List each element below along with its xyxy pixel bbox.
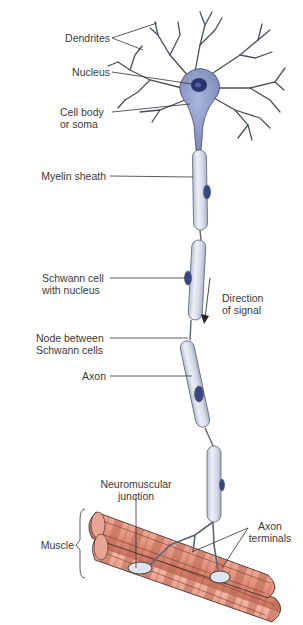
label-neuromuscular-junction: Neuromuscular junction — [86, 478, 186, 502]
label-direction-line2: of signal — [222, 304, 263, 316]
label-schwann-line2: with nucleus — [42, 284, 104, 296]
label-axon-terminals-line1: Axon — [240, 520, 300, 532]
label-nmj-line1: Neuromuscular — [86, 478, 186, 490]
label-node-line1: Node between — [36, 332, 104, 344]
label-node-between-schwann-cells: Node between Schwann cells — [36, 332, 104, 356]
label-myelin-sheath: Myelin sheath — [10, 170, 106, 182]
label-nmj-line2: junction — [86, 490, 186, 502]
neuron-diagram: Dendrites Nucleus Cell body or soma Myel… — [0, 0, 303, 625]
label-cell-body-line1: Cell body — [60, 106, 104, 118]
label-cell-body-line2: or soma — [60, 118, 104, 130]
label-dendrites: Dendrites — [20, 32, 110, 44]
label-node-line2: Schwann cells — [36, 344, 104, 356]
label-cell-body: Cell body or soma — [60, 106, 104, 130]
myelin-segments — [179, 150, 224, 522]
label-muscle: Muscle — [10, 539, 74, 551]
label-schwann-cell: Schwann cell with nucleus — [42, 272, 104, 296]
label-axon-terminals-line2: terminals — [240, 532, 300, 544]
motor-end-plate-1 — [128, 562, 152, 574]
label-direction-of-signal: Direction of signal — [222, 292, 263, 316]
label-schwann-line1: Schwann cell — [42, 272, 104, 284]
label-axon-terminals: Axon terminals — [240, 520, 300, 544]
motor-end-plate-2 — [210, 571, 230, 583]
label-direction-line1: Direction — [222, 292, 263, 304]
label-axon: Axon — [20, 370, 106, 382]
label-nucleus: Nucleus — [20, 66, 110, 78]
